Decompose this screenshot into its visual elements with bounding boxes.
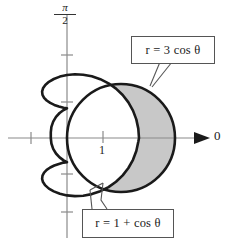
polar-plot-figure: r = 3 cos θ r = 1 + cos θ 0 1 π 2 (0, 0, 231, 243)
half-pi-numerator: π (54, 2, 76, 15)
half-pi-denominator: 2 (54, 15, 76, 27)
callout-cardioid-equation: r = 1 + cos θ (82, 209, 174, 238)
leader-line-circle (150, 62, 172, 87)
axis-arrow-icon (194, 132, 210, 144)
cardioid-equation-text: r = 1 + cos θ (95, 217, 160, 230)
x-tick-label-one: 1 (99, 143, 105, 158)
polar-axis-label: 0 (214, 128, 221, 144)
callout-circle-equation: r = 3 cos θ (131, 36, 215, 64)
vertical-axis-label-half-pi: π 2 (54, 2, 76, 26)
circle-equation-text: r = 3 cos θ (146, 44, 201, 57)
